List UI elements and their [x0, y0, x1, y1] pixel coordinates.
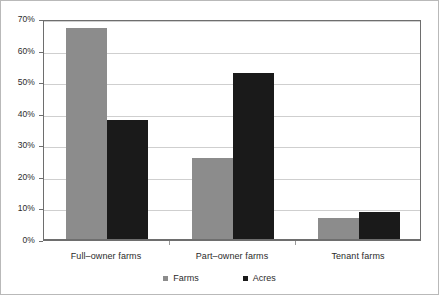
- chart-legend: FarmsAcres: [1, 273, 438, 283]
- legend-item-acres[interactable]: Acres: [243, 273, 276, 283]
- square-marker-black-icon: [243, 276, 248, 281]
- y-axis-tick-label: 10%: [1, 203, 35, 213]
- bar-acres-2: [233, 73, 274, 240]
- x-axis-category-label: Tenant farms: [295, 251, 421, 261]
- y-axis-tick-label: 30%: [1, 140, 35, 150]
- x-axis-category-label: Part–owner farms: [169, 251, 295, 261]
- bar-acres-1: [107, 120, 148, 240]
- bar-acres-3: [359, 212, 400, 240]
- legend-label: Acres: [253, 273, 276, 283]
- bar-farms-1: [66, 28, 107, 240]
- legend-item-farms[interactable]: Farms: [163, 273, 199, 283]
- bar-chart-figure: 0%10%20%30%40%50%60%70% Full–owner farms…: [0, 0, 439, 295]
- square-marker-gray-icon: [163, 276, 168, 281]
- y-axis-tick-label: 0%: [1, 235, 35, 245]
- y-axis-tick-mark: [39, 241, 43, 242]
- bar-farms-3: [318, 218, 359, 240]
- x-axis-tick-mark: [169, 241, 170, 245]
- y-axis-tick-label: 40%: [1, 109, 35, 119]
- gridline: [44, 21, 420, 22]
- y-axis-tick-label: 50%: [1, 77, 35, 87]
- x-axis-line: [44, 239, 420, 240]
- y-axis-tick-label: 70%: [1, 14, 35, 24]
- x-axis-tick-mark: [295, 241, 296, 245]
- x-axis-category-label: Full–owner farms: [43, 251, 169, 261]
- bar-farms-2: [192, 158, 233, 240]
- legend-label: Farms: [173, 273, 199, 283]
- plot-area: [43, 20, 421, 241]
- y-axis-tick-label: 60%: [1, 46, 35, 56]
- y-axis-tick-label: 20%: [1, 172, 35, 182]
